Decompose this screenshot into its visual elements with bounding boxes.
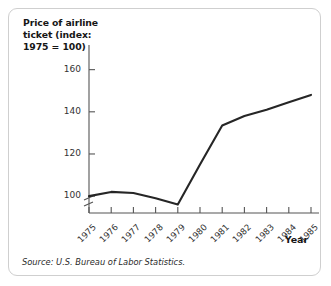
source-note: Source: U.S. Bureau of Labor Statistics. [22, 257, 185, 267]
y-tick-label-160: 160 [55, 64, 81, 74]
x-axis-title: Year [285, 234, 308, 246]
axes-group [84, 45, 319, 213]
y-tick-label-100: 100 [55, 190, 81, 200]
y-tick-label-140: 140 [55, 106, 81, 116]
data-series-group [89, 95, 311, 205]
data-line-0 [89, 95, 311, 205]
y-tick-label-120: 120 [55, 148, 81, 158]
chart-figure: Price of airline ticket (index: 1975 = 1… [8, 8, 321, 276]
